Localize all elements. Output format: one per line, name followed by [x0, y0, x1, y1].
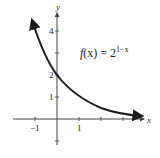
y-tick-label-1: 1	[49, 92, 54, 102]
x-tick-label-1: 1	[77, 123, 82, 133]
y-tick-label-2: 2	[49, 70, 54, 80]
y-tick-label-4: 4	[49, 26, 54, 36]
x-axis-label: x	[146, 115, 151, 125]
x-tick-label-neg1: −1	[30, 123, 40, 133]
y-axis-label: y	[55, 2, 60, 12]
exponential-function-graph: x y −1 1 1 2 4 f(x) = 21−x	[0, 0, 160, 158]
function-label: f(x) = 21−x	[80, 45, 129, 60]
